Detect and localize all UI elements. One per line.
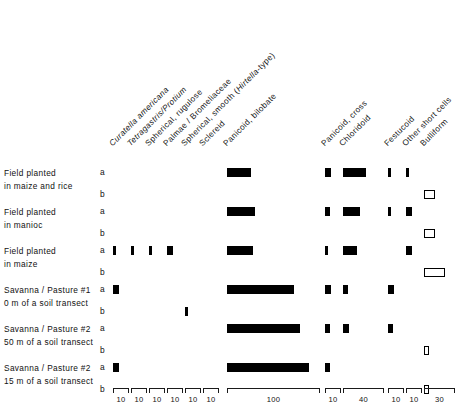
- row-sublabel-a: a: [100, 206, 110, 216]
- axis-bracket-other_short_cells: [406, 388, 422, 393]
- row-label-line1: Savanna / Pasture #2: [4, 362, 93, 375]
- axis-bracket-spherical_smooth: [185, 388, 201, 393]
- bar-bulliform-row2b: [424, 229, 435, 238]
- bar-chloridoid-row3a: [343, 246, 357, 255]
- row-sublabel-a: a: [100, 362, 110, 372]
- row-sublabel-b: b: [100, 189, 110, 199]
- axis-bracket-panicoid_bilobate: [227, 388, 320, 393]
- bar-palmae_bromeliaceae-row3a: [167, 246, 173, 255]
- bar-chloridoid-row5a: [343, 324, 349, 333]
- axis-bracket-festucoid: [388, 388, 404, 393]
- bar-festucoid-row1a: [388, 168, 391, 177]
- axis-bracket-spherical_rugulose: [149, 388, 165, 393]
- row-sublabel-b: b: [100, 267, 110, 277]
- bar-bulliform-row1b: [424, 190, 435, 199]
- bar-spherical_rugulose-row3a: [149, 246, 152, 255]
- row-label-line1: Field planted: [4, 206, 56, 219]
- row-label: Savanna / Pasture #215 m of a soil trans…: [4, 362, 93, 387]
- row-label: Savanna / Pasture #250 m of a soil trans…: [4, 323, 93, 348]
- row-label: Savanna / Pasture #10 m of a soil transe…: [4, 284, 91, 309]
- bar-panicoid_bilobate-row2a: [227, 207, 255, 216]
- row-sublabel-a: a: [100, 245, 110, 255]
- row-sublabel-b: b: [100, 384, 110, 394]
- bar-panicoid_cross-row3a: [325, 246, 328, 255]
- row-sublabel-a: a: [100, 323, 110, 333]
- bar-bulliform-row3b: [424, 268, 445, 277]
- phytolith-diagram: Curatella americanaTetragastris/ProtiumS…: [0, 0, 470, 413]
- bar-festucoid-row4a: [388, 285, 394, 294]
- axis-bracket-curatella_americana: [113, 388, 129, 393]
- bar-festucoid-row2a: [388, 207, 391, 216]
- row-label: Field plantedin maize and rice: [4, 167, 73, 192]
- bar-chloridoid-row1a: [343, 168, 366, 177]
- bar-other_short_cells-row2a: [406, 207, 412, 216]
- row-label-line2: 50 m of a soil transect: [4, 336, 93, 349]
- bar-panicoid_cross-row1a: [325, 168, 331, 177]
- bar-panicoid_bilobate-row6a: [227, 363, 309, 372]
- bar-panicoid_bilobate-row1a: [227, 168, 251, 177]
- bar-panicoid_bilobate-row3a: [227, 246, 253, 255]
- bar-panicoid_cross-row5a: [325, 324, 330, 333]
- bar-other_short_cells-row1a: [406, 168, 409, 177]
- bar-chloridoid-row4a: [343, 285, 348, 294]
- bar-panicoid_bilobate-row5a: [227, 324, 300, 333]
- bar-curatella_americana-row6a: [113, 363, 119, 372]
- row-label: Field plantedin maize: [4, 245, 56, 270]
- row-label-line1: Field planted: [4, 245, 56, 258]
- bar-festucoid-row5a: [388, 324, 393, 333]
- row-sublabel-a: a: [100, 167, 110, 177]
- bar-tetragastris_protium-row3a: [131, 246, 134, 255]
- axis-bracket-sclereid: [203, 388, 219, 393]
- row-sublabel-a: a: [100, 284, 110, 294]
- axis-bracket-bulliform: [424, 388, 455, 393]
- bar-other_short_cells-row3a: [406, 246, 412, 255]
- bar-chloridoid-row2a: [343, 207, 360, 216]
- bar-curatella_americana-row4a: [113, 285, 119, 294]
- bar-panicoid_cross-row6a: [325, 363, 330, 372]
- row-sublabel-b: b: [100, 306, 110, 316]
- row-sublabel-b: b: [100, 228, 110, 238]
- row-label-line2: in maize: [4, 258, 56, 271]
- axis-tick-label-bulliform: 30: [414, 395, 465, 404]
- axis-tick-label-panicoid_bilobate: 100: [217, 395, 330, 404]
- axis-bracket-tetragastris_protium: [131, 388, 147, 393]
- row-label: Field plantedin manioc: [4, 206, 56, 231]
- bar-panicoid_cross-row2a: [325, 207, 330, 216]
- row-label-line1: Savanna / Pasture #2: [4, 323, 93, 336]
- axis-bracket-panicoid_cross: [325, 388, 341, 393]
- row-label-line2: in manioc: [4, 219, 56, 232]
- bar-curatella_americana-row3a: [113, 246, 116, 255]
- bar-panicoid_bilobate-row4a: [227, 285, 294, 294]
- axis-bracket-palmae_bromeliaceae: [167, 388, 183, 393]
- row-sublabel-b: b: [100, 345, 110, 355]
- row-label-line2: 0 m of a soil transect: [4, 297, 91, 310]
- bar-panicoid_cross-row4a: [325, 285, 331, 294]
- axis-bracket-chloridoid: [343, 388, 384, 393]
- bar-bulliform-row5b: [424, 346, 429, 355]
- row-label-line1: Savanna / Pasture #1: [4, 284, 91, 297]
- row-label-line1: Field planted: [4, 167, 73, 180]
- bar-spherical_smooth-row4b: [185, 307, 188, 316]
- row-label-line2: in maize and rice: [4, 180, 73, 193]
- row-label-line2: 15 m of a soil transect: [4, 375, 93, 388]
